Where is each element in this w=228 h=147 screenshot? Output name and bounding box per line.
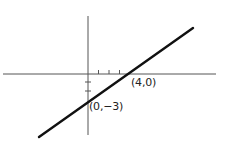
graph-canvas — [0, 0, 228, 147]
x-axis-ticks — [99, 70, 120, 74]
graph-diagram: (4,0) (0,−3) — [0, 0, 228, 147]
y-intercept-label: (0,−3) — [89, 101, 123, 113]
plotted-line — [39, 28, 193, 137]
x-intercept-label: (4,0) — [131, 77, 156, 89]
